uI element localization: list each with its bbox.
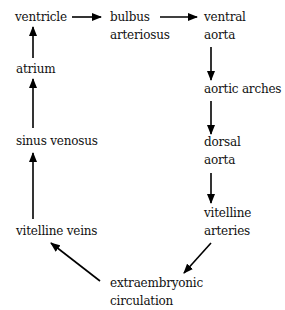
node-vitelline-arteries: vitelline arteries [204,204,251,240]
node-bulbus-label-line1: bulbus [110,8,170,26]
node-vitelline-arteries-line2: arteries [204,222,251,240]
node-sinus-venosus: sinus venosus [16,132,98,150]
circulation-flow-diagram: ventricle bulbus arteriosus ventral aort… [0,0,285,310]
node-vitelline-arteries-line1: vitelline [204,204,251,222]
node-ventral-aorta-line1: ventral [204,8,246,26]
node-dorsal-aorta-line2: aorta [204,151,241,169]
node-dorsal-aorta-line1: dorsal [204,133,241,151]
arrow-extraembryonic-to-vitelline-veins [51,243,100,281]
node-vitelline-veins-label: vitelline veins [16,222,97,240]
arrows-layer [0,0,285,310]
node-ventral-aorta-line2: aorta [204,26,246,44]
node-bulbus-arteriosus: bulbus arteriosus [110,8,170,44]
node-sinus-venosus-label: sinus venosus [16,132,98,150]
node-extraembryonic-circulation: extraembryonic circulation [110,274,203,310]
node-dorsal-aorta: dorsal aorta [204,133,241,169]
node-atrium: atrium [16,60,55,78]
arrow-vitelline-arteries-to-extraembryonic [184,243,211,273]
node-aortic-arches-label: aortic arches [204,80,281,98]
node-vitelline-veins: vitelline veins [16,222,97,240]
node-aortic-arches: aortic arches [204,80,281,98]
node-extraembryonic-line2: circulation [110,292,203,310]
node-ventricle: ventricle [15,8,67,26]
node-ventral-aorta: ventral aorta [204,8,246,44]
node-ventricle-label: ventricle [15,8,67,26]
node-atrium-label: atrium [16,60,55,78]
node-bulbus-label-line2: arteriosus [110,26,170,44]
node-extraembryonic-line1: extraembryonic [110,274,203,292]
